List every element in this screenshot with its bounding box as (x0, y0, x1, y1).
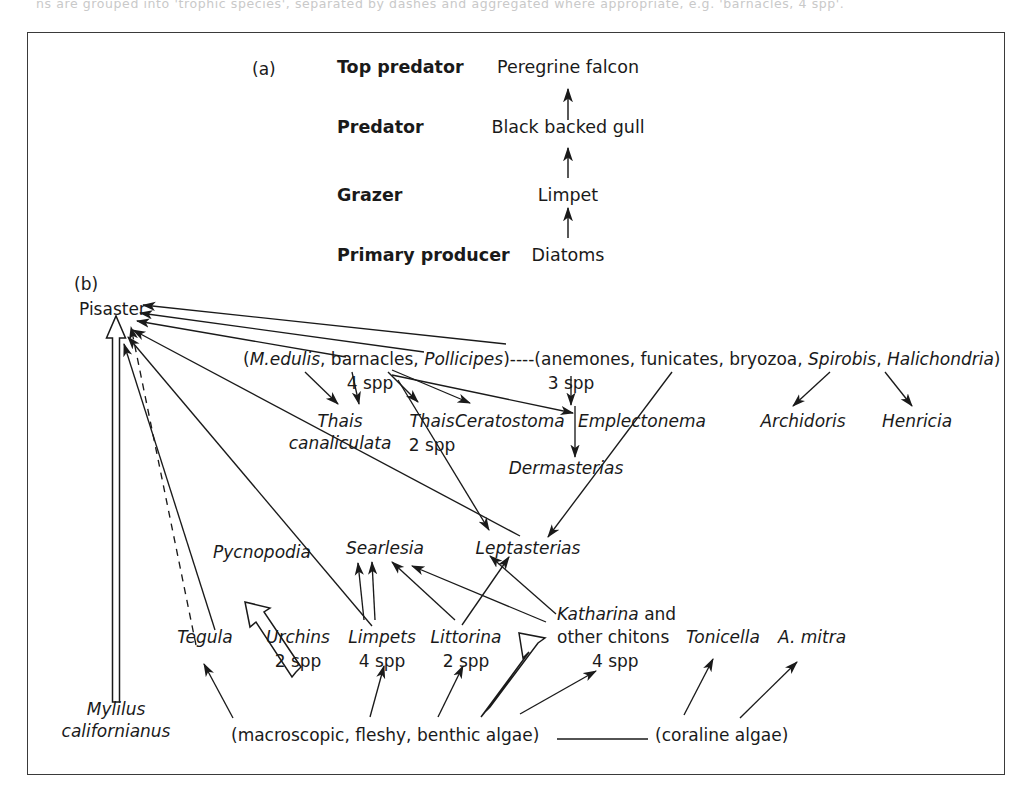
node-tonicella: Tonicella (686, 628, 760, 647)
node-anemone-group-spp: 3 spp (548, 374, 595, 393)
node-benthic-algae: (macroscopic, fleshy, benthic algae) (231, 726, 539, 745)
node-pycnopodia: Pycnopodia (213, 543, 311, 562)
anemone-group-close-paren: ) (994, 349, 1001, 369)
trophic-role-predator: Predator (337, 118, 424, 138)
organism-black-backed-gull: Black backed gull (491, 118, 644, 138)
node-katharina-line2: other chitons (557, 628, 669, 647)
organism-diatoms: Diatoms (532, 246, 605, 266)
anemone-group-spirobis: Spirobis (808, 349, 876, 369)
organism-limpet: Limpet (538, 186, 598, 206)
node-mytilus-line1: Mylilus (87, 700, 146, 719)
trophic-role-grazer: Grazer (337, 186, 403, 206)
panel-b-tag: (b) (74, 275, 98, 294)
node-mussel-group: (M.edulis, barnacles, Pollicipes)----(an… (243, 350, 1000, 369)
mussel-group-medulis: M.edulis (250, 349, 320, 369)
node-ceratostoma: Ceratostoma (455, 412, 565, 431)
mussel-group-barnacles: , barnacles, (320, 349, 424, 369)
node-mussel-group-spp: 4 spp (347, 374, 394, 393)
katharina-and: and (639, 604, 676, 624)
mussel-group-pollicipes: Pollicipes (424, 349, 503, 369)
node-pisaster: Pisaster (79, 300, 146, 319)
figure-canvas: ns are grouped into 'trophic species', s… (0, 0, 1030, 795)
node-thais-2spp-line1: Thais (409, 412, 454, 431)
node-thais-canaliculata-line1: Thais (317, 412, 362, 431)
organism-peregrine-falcon: Peregrine falcon (497, 58, 639, 78)
node-katharina-line3: 4 spp (592, 652, 639, 671)
node-urchins-line1: Urchins (266, 628, 330, 647)
node-coraline-algae: (coraline algae) (655, 726, 788, 745)
node-littorina-line1: Littorina (431, 628, 502, 647)
node-urchins-line2: 2 spp (275, 652, 322, 671)
anemone-group-comma: , (876, 349, 887, 369)
node-searlesia: Searlesia (346, 539, 424, 558)
node-a-mitra: A. mitra (778, 628, 846, 647)
panel-a-tag: (a) (252, 60, 276, 79)
mussel-group-open-paren: ( (243, 349, 250, 369)
trophic-role-top-predator: Top predator (337, 58, 464, 78)
node-thais-canaliculata-line2: canaliculata (289, 434, 392, 453)
group-separator-dashes: ---- (510, 349, 535, 369)
node-thais-2spp-line2: 2 spp (409, 436, 456, 455)
node-dermasterias: Dermasterias (509, 459, 623, 478)
anemone-group-prefix: (anemones, funicates, bryozoa, (534, 349, 808, 369)
node-emplectonema: Emplectonema (578, 412, 706, 431)
mussel-group-close-paren: ) (503, 349, 510, 369)
node-limpets-line1: Limpets (348, 628, 416, 647)
node-littorina-line2: 2 spp (443, 652, 490, 671)
trophic-role-primary-producer: Primary producer (337, 246, 510, 266)
node-mytilus-line2: californianus (62, 722, 171, 741)
node-henricia: Henricia (882, 412, 952, 431)
katharina-genus: Katharina (557, 604, 639, 624)
node-archidoris: Archidoris (760, 412, 845, 431)
node-katharina-line1: Katharina and (557, 605, 676, 624)
node-limpets-line2: 4 spp (359, 652, 406, 671)
cropped-caption-text: ns are grouped into 'trophic species', s… (36, 0, 996, 18)
node-tegula: Tegula (177, 628, 232, 647)
figure-border (27, 32, 1005, 775)
node-leptasterias: Leptasterias (476, 539, 581, 558)
anemone-group-halichondria: Halichondria (887, 349, 994, 369)
